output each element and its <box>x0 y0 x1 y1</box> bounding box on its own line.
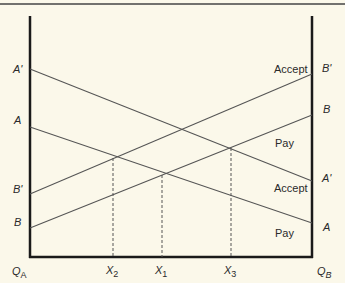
axis-label-qa: QA <box>12 265 27 280</box>
region-label-pay-bottom: Pay <box>275 227 294 239</box>
region-label-accept-top: Accept <box>274 63 308 75</box>
axis-label-qb: QB <box>317 265 332 280</box>
left-label-a-prime: A' <box>12 63 23 75</box>
left-label-a: A <box>13 114 21 126</box>
line-b <box>30 115 312 228</box>
left-label-b-prime: B' <box>13 183 23 195</box>
line-b-prime <box>30 74 312 194</box>
left-label-b: B <box>14 216 21 228</box>
right-label-a-prime: A' <box>321 172 332 184</box>
line-a-prime <box>30 69 312 181</box>
right-label-b: B <box>323 103 330 115</box>
tick-x3: X3 <box>223 264 236 279</box>
bargaining-diagram: A' A B' B B' B A' A Accept Pay Accept Pa… <box>0 0 345 283</box>
tick-x1: X1 <box>154 264 167 279</box>
region-label-pay-top: Pay <box>275 137 294 149</box>
right-label-a: A <box>322 221 330 233</box>
tick-x2: X2 <box>105 264 118 279</box>
line-a <box>30 127 312 223</box>
region-label-accept-bottom: Accept <box>274 182 308 194</box>
right-label-b-prime: B' <box>322 62 332 74</box>
